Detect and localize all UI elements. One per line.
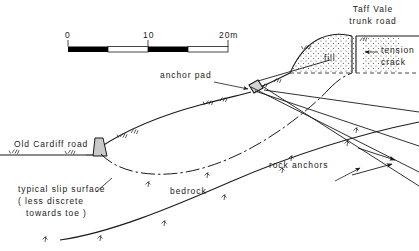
label-slip-surface-line2: ( less discrete [18, 196, 84, 207]
label-slip-surface-line1: typical slip surface [18, 184, 105, 195]
label-tension-crack-line1: tension [381, 45, 415, 56]
label-old-cardiff-road: Old Cardiff road [14, 139, 88, 150]
label-rock-anchors: rock anchors [269, 160, 328, 171]
label-trunk-road-line1: Taff Vale [333, 4, 413, 15]
label-bedrock: bedrock [170, 186, 207, 197]
label-tension-crack-line2: crack [381, 57, 406, 68]
label-trunk-road-line2: trunk road [333, 16, 413, 27]
label-anchor-pad: anchor pad [160, 70, 212, 81]
scale-tick-20m: 20m [219, 30, 238, 41]
scale-tick-0: 0 [65, 30, 71, 41]
retaining-wall [93, 138, 107, 156]
scale-tick-10: 10 [143, 30, 154, 41]
scale-bar [68, 40, 228, 52]
diagram-canvas: Taff Vale trunk road tension crack fill … [0, 0, 419, 251]
label-slip-surface-line3: towards toe ) [26, 208, 87, 219]
label-fill: fill [324, 53, 336, 64]
